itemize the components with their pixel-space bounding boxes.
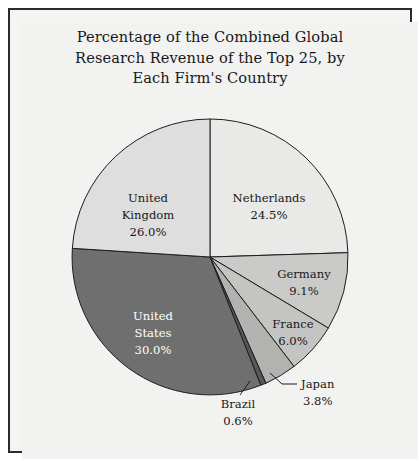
pie-chart: Netherlands 24.5% United Kingdom 26.0% U… <box>12 12 408 449</box>
pie-label-uk-name-1: United <box>128 191 168 205</box>
pie-label-japan-name: Japan <box>300 377 335 391</box>
pie-label-netherlands-value: 24.5% <box>251 208 288 222</box>
pie-label-uk-value: 26.0% <box>130 225 167 239</box>
pie-label-uk-name-2: Kingdom <box>122 208 175 222</box>
pie-label-germany-name: Germany <box>277 267 331 281</box>
pie-label-germany-value: 9.1% <box>289 284 318 298</box>
pie-label-france-name: France <box>272 317 313 331</box>
pie-label-brazil-name: Brazil <box>221 397 256 411</box>
figure-container: Percentage of the Combined Global Resear… <box>0 0 420 461</box>
pie-slice-netherlands[interactable] <box>210 119 348 257</box>
pie-label-brazil-value: 0.6% <box>223 414 252 428</box>
pie-label-netherlands-name: Netherlands <box>233 191 306 205</box>
pie-label-japan-value: 3.8% <box>303 394 332 408</box>
pie-label-us-value: 30.0% <box>135 343 172 357</box>
pie-label-france-value: 6.0% <box>278 334 307 348</box>
pie-label-us-name-2: States <box>135 326 172 340</box>
pie-label-us-name-1: United <box>133 309 173 323</box>
pie-chart-svg: Netherlands 24.5% United Kingdom 26.0% U… <box>12 12 408 449</box>
